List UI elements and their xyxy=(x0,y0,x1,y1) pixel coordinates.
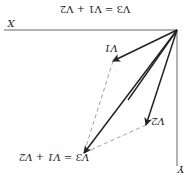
v1-label: V1 xyxy=(104,43,118,54)
vector-v1 xyxy=(113,30,177,61)
vector-addition-diagram: V3 = V1 + V2 X Y V1 V2 V3 = V1 + V2 xyxy=(0,0,190,180)
v2-label: V2 xyxy=(151,116,165,127)
svg-text:V1: V1 xyxy=(104,43,118,54)
y-axis-label: Y xyxy=(176,164,184,175)
dashed-v2-to-v3 xyxy=(84,125,146,153)
dashed-v1-to-v3 xyxy=(84,61,113,153)
vector-v2 xyxy=(146,30,177,125)
svg-text:Y: Y xyxy=(176,164,184,175)
v3-label: V3 = V1 + V2 xyxy=(19,152,89,163)
vector-fan-line xyxy=(128,30,177,100)
title-fragment: V3 = V1 + V2 xyxy=(60,4,131,15)
svg-text:V2: V2 xyxy=(151,116,165,127)
svg-text:X: X xyxy=(7,18,16,29)
svg-text:V3 = V1 + V2: V3 = V1 + V2 xyxy=(60,4,131,15)
vector-v3 xyxy=(84,30,177,153)
x-axis-label: X xyxy=(7,18,16,29)
svg-text:V3 = V1 + V2: V3 = V1 + V2 xyxy=(19,152,89,163)
